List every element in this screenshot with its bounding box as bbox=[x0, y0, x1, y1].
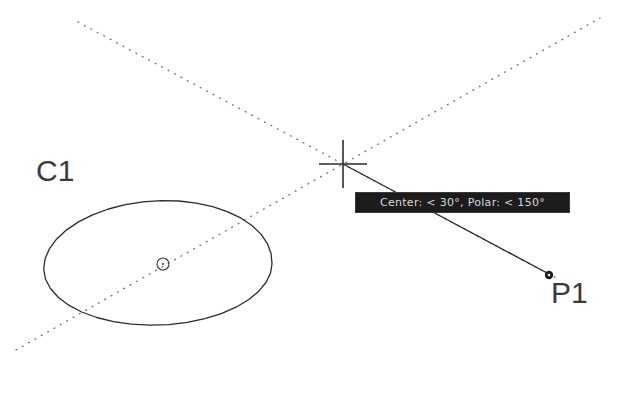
circle-c1[interactable] bbox=[44, 201, 272, 326]
circle-label-c1: C1 bbox=[36, 154, 74, 188]
polar-tracking-tooltip: Center: < 30°, Polar: < 150° bbox=[355, 192, 570, 213]
polar-tracking-ray-30-icon bbox=[16, 18, 600, 350]
tooltip-text: Center: < 30°, Polar: < 150° bbox=[380, 197, 545, 208]
point-label-p1: P1 bbox=[551, 276, 588, 310]
rubber-band-line bbox=[343, 164, 549, 274]
crosshair-cursor-icon[interactable] bbox=[319, 140, 367, 188]
cad-drawing-canvas[interactable]: Center: < 30°, Polar: < 150° C1 P1 bbox=[0, 0, 617, 396]
center-snap-dot-icon bbox=[162, 263, 164, 265]
